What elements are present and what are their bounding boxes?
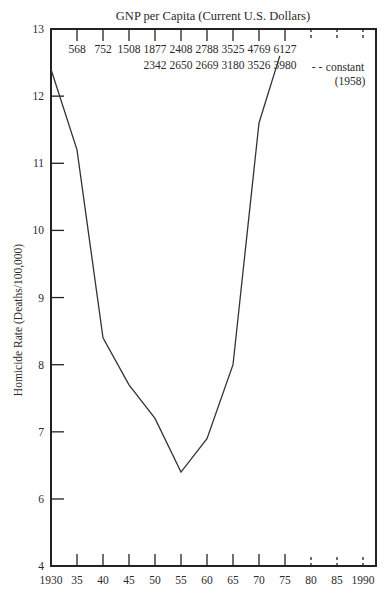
y-tick-label: 10 (33, 224, 45, 236)
y-tick-label: 13 (33, 23, 45, 35)
gnp-current-label: 1508 (118, 43, 141, 55)
homicide-gnp-chart: 1930354045505560657075808519904678910111… (0, 0, 391, 596)
x-tick-label: 65 (227, 574, 239, 586)
constant-year: (1958) (335, 75, 366, 88)
x-tick-label: 55 (175, 574, 187, 586)
gnp-current-label: 2408 (170, 43, 193, 55)
plot-frame (51, 29, 376, 566)
top-axis-title: GNP per Capita (Current U.S. Dollars) (116, 9, 310, 23)
x-tick-label: 1990 (352, 574, 375, 586)
y-tick-label: 4 (38, 560, 44, 572)
gnp-current-label: 6127 (274, 43, 297, 55)
axis-labels: 1930354045505560657075808519904678910111… (33, 23, 375, 586)
x-tick-label: 70 (253, 574, 265, 586)
gnp-current-label: 568 (68, 43, 86, 55)
y-axis-title: Homicide Rate (Deaths/100,000) (12, 244, 25, 397)
gnp-constant-label: 2342 (144, 59, 167, 71)
y-tick-label: 9 (38, 292, 44, 304)
x-tick-label: 60 (201, 574, 213, 586)
gnp-current-label: 1877 (144, 43, 167, 55)
y-tick-label: 7 (38, 426, 44, 438)
y-tick-label: 11 (33, 157, 44, 169)
x-tick-label: 35 (71, 574, 83, 586)
x-tick-label: 50 (149, 574, 161, 586)
constant-note: constant (326, 61, 365, 73)
x-tick-label: 45 (123, 574, 135, 586)
x-tick-label: 1930 (40, 574, 63, 586)
gnp-constant-label: 3526 (248, 59, 271, 71)
gnp-current-label: 2788 (196, 43, 219, 55)
x-tick-label: 80 (305, 574, 317, 586)
x-tick-label: 85 (331, 574, 343, 586)
gnp-constant-label: 2650 (170, 59, 193, 71)
gnp-current-label: 752 (94, 43, 112, 55)
y-tick-label: 6 (38, 493, 44, 505)
y-tick-label: 8 (38, 359, 44, 371)
homicide-rate-line (51, 56, 280, 472)
x-tick-label: 40 (97, 574, 109, 586)
gnp-constant-label: 3180 (222, 59, 245, 71)
x-tick-label: 75 (279, 574, 291, 586)
y-tick-label: 12 (33, 90, 45, 102)
gnp-current-label: 3525 (222, 43, 245, 55)
gnp-current-label: 4769 (248, 43, 271, 55)
constant-dashes: - - (312, 60, 323, 72)
gnp-constant-label: 2669 (196, 59, 219, 71)
